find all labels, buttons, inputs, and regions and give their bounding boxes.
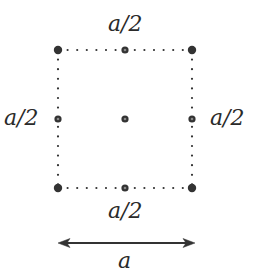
label-right-text: a/2	[210, 105, 245, 130]
label-bottom: a/2	[108, 200, 143, 222]
corner-bottom-right-dot	[188, 184, 196, 192]
label-right: a/2	[210, 107, 245, 129]
lattice-points	[54, 46, 196, 192]
midpoint-left-dot-highlight	[57, 118, 60, 121]
lattice-diagram: a/2 a/2 a/2 a/2 a	[0, 0, 258, 278]
corner-top-right-dot	[188, 46, 196, 54]
corner-bottom-left-dot	[54, 184, 62, 192]
corner-top-left-dot	[54, 46, 62, 54]
length-arrow	[58, 239, 195, 248]
midpoint-right-dot-highlight	[191, 118, 194, 121]
label-left-text: a/2	[4, 105, 39, 130]
midpoint-top-dot-highlight	[124, 49, 127, 52]
center-dot-highlight	[124, 118, 127, 121]
midpoint-bottom-dot-highlight	[124, 187, 127, 190]
label-length-text: a	[118, 248, 131, 273]
diagram-svg	[0, 0, 258, 278]
label-top: a/2	[108, 13, 143, 35]
label-length: a	[118, 250, 131, 272]
label-left: a/2	[4, 107, 39, 129]
label-top-text: a/2	[108, 11, 143, 36]
label-bottom-text: a/2	[108, 198, 143, 223]
